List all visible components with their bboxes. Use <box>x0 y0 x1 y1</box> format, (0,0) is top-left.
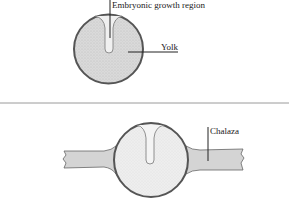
chalaza-label: Chalaza <box>210 126 239 136</box>
yolk-label: Yolk <box>161 42 178 52</box>
left-chalaza <box>63 146 116 174</box>
egg-yolk-diagram <box>0 0 289 210</box>
right-chalaza <box>186 146 244 174</box>
embryonic-growth-region-label: Embryonic growth region <box>112 0 205 10</box>
